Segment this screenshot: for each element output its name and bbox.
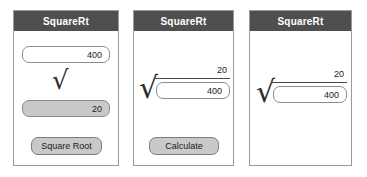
radical-expression-group: √ 20 400 <box>256 69 348 111</box>
result-value-above-radical: 20 <box>217 65 227 75</box>
square-root-button[interactable]: Square Root <box>31 137 102 155</box>
titlebar-3: SquareRt <box>250 11 351 31</box>
radical-sign-icon: √ <box>52 67 69 93</box>
result-output-field: 20 <box>22 100 110 117</box>
titlebar-2: SquareRt <box>134 11 233 31</box>
app-title: SquareRt <box>277 16 323 27</box>
app-title: SquareRt <box>43 16 89 27</box>
panel-body-2: √ 20 400 Calculate <box>134 31 233 165</box>
number-input-field[interactable]: 400 <box>273 86 347 103</box>
panel-body-1: 400 √ 20 Square Root <box>14 31 118 165</box>
result-value: 20 <box>92 104 102 114</box>
number-input-value: 400 <box>87 50 102 60</box>
radical-vinculum-line <box>271 82 347 83</box>
number-input-value: 400 <box>207 86 222 96</box>
calculate-button-label: Calculate <box>165 141 203 151</box>
app-window-3: SquareRt √ 20 400 <box>249 10 352 166</box>
number-input-value: 400 <box>324 90 339 100</box>
panel-body-3: √ 20 400 <box>250 31 351 165</box>
result-value-above-radical: 20 <box>334 69 344 79</box>
radical-expression-group: √ 20 400 <box>139 65 231 107</box>
app-title: SquareRt <box>160 16 206 27</box>
number-input-field[interactable]: 400 <box>22 46 110 63</box>
titlebar-1: SquareRt <box>14 11 118 31</box>
calculate-button[interactable]: Calculate <box>149 137 219 155</box>
radical-vinculum-line <box>154 78 230 79</box>
number-input-field[interactable]: 400 <box>156 82 230 99</box>
square-root-button-label: Square Root <box>41 141 92 151</box>
app-window-2: SquareRt √ 20 400 Calculate <box>133 10 234 166</box>
app-window-1: SquareRt 400 √ 20 Square Root <box>13 10 119 166</box>
